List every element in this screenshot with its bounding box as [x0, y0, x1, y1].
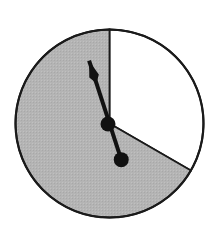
spinner-diagram — [0, 0, 223, 228]
pointer-tail-weight — [114, 152, 129, 167]
pointer-hub — [101, 117, 116, 132]
